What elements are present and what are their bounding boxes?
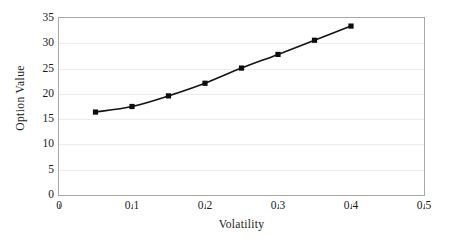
- data-point-marker: [166, 93, 171, 98]
- x-axis-tick-marks: [58, 196, 425, 202]
- x-tick-label: 0.1: [125, 200, 139, 212]
- x-tick-label: 0.2: [198, 200, 212, 212]
- option-value-vs-volatility-chart: Option Value 05101520253035 00.10.20.30.…: [0, 0, 451, 243]
- x-tick-label: 0: [56, 200, 62, 212]
- y-tick-label: 15: [32, 113, 54, 125]
- data-point-marker: [93, 109, 98, 114]
- x-axis-title: Volatility: [58, 218, 425, 230]
- y-axis-title-text: Option Value: [14, 65, 26, 131]
- gridlines: [59, 44, 424, 170]
- y-axis-tick-labels: 05101520253035: [30, 0, 54, 243]
- y-tick-label: 10: [32, 139, 54, 151]
- data-point-marker: [312, 38, 317, 43]
- plot-svg: [59, 18, 424, 195]
- x-tick-label: 0.5: [417, 200, 431, 212]
- x-tick-label: 0.3: [271, 200, 285, 212]
- data-point-marker: [239, 65, 244, 70]
- y-tick-label: 35: [32, 12, 54, 24]
- x-tick-svg: [58, 204, 425, 210]
- data-point-marker: [348, 23, 353, 28]
- data-point-marker: [129, 104, 134, 109]
- plot-area: [58, 17, 425, 196]
- y-tick-label: 20: [32, 88, 54, 100]
- data-point-marker: [202, 81, 207, 86]
- y-tick-label: 0: [32, 189, 54, 201]
- x-tick-label: 0.4: [344, 200, 358, 212]
- y-tick-label: 25: [32, 63, 54, 75]
- y-tick-label: 30: [32, 38, 54, 50]
- y-tick-label: 5: [32, 164, 54, 176]
- data-point-marker: [275, 52, 280, 57]
- y-axis-title: Option Value: [8, 0, 32, 196]
